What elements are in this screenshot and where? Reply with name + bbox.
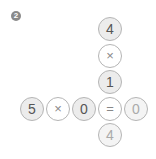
horizontal-multiply-sign: × [46, 97, 70, 121]
horizontal-operand-2: 0 [72, 97, 96, 121]
vertical-operand-2: 1 [98, 70, 122, 94]
horizontal-answer: 0 [124, 97, 148, 121]
vertical-operand-1: 4 [98, 17, 122, 41]
horizontal-operand-1: 5 [20, 97, 44, 121]
shared-equals-sign: = [98, 97, 122, 121]
vertical-answer: 4 [98, 123, 122, 147]
problem-number-badge: 2 [11, 11, 21, 21]
vertical-multiply-sign: × [98, 44, 122, 68]
